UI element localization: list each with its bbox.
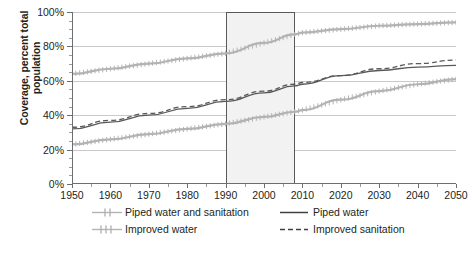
legend-label: Improved sanitation xyxy=(313,223,405,235)
x-minor-tick xyxy=(322,184,323,187)
x-minor-tick xyxy=(206,184,207,187)
x-tick-label: 2040 xyxy=(406,189,429,201)
legend-item-improved-water: Improved water xyxy=(92,223,280,235)
x-tick xyxy=(187,184,188,188)
legend-item-improved-sanitation: Improved sanitation xyxy=(280,223,405,235)
y-tick-label: 20% xyxy=(43,144,64,156)
x-tick-label: 2000 xyxy=(252,189,275,201)
x-tick-label: 2030 xyxy=(368,189,391,201)
legend-item-piped-water-and-sanitation: Piped water and sanitation xyxy=(92,206,280,218)
y-tick-label: 100% xyxy=(37,6,64,18)
x-tick-label: 1970 xyxy=(137,189,160,201)
line-light-plus-markers-icon xyxy=(92,207,122,218)
series-layer xyxy=(72,12,456,184)
x-minor-tick xyxy=(437,184,438,187)
x-minor-tick xyxy=(360,184,361,187)
x-minor-tick xyxy=(130,184,131,187)
x-minor-tick xyxy=(398,184,399,187)
x-tick xyxy=(341,184,342,188)
x-tick-label: 1990 xyxy=(214,189,237,201)
series-improved-water xyxy=(72,20,456,77)
x-tick-label: 1960 xyxy=(99,189,122,201)
legend-label: Improved water xyxy=(125,223,197,235)
x-tick-label: 1950 xyxy=(60,189,83,201)
y-axis-title: Coverage, percent total population xyxy=(18,0,42,142)
legend-label: Piped water and sanitation xyxy=(125,206,249,218)
x-tick xyxy=(456,184,457,188)
x-tick xyxy=(264,184,265,188)
x-tick xyxy=(149,184,150,188)
y-tick-label: 60% xyxy=(43,75,64,87)
x-minor-tick xyxy=(283,184,284,187)
x-tick xyxy=(72,184,73,188)
line-light-plus-markers-icon xyxy=(92,224,122,235)
line-dashed-dark-icon xyxy=(280,224,310,235)
y-tick-label: 40% xyxy=(43,109,64,121)
legend-row: Piped water and sanitation Piped water xyxy=(92,206,452,218)
x-tick xyxy=(379,184,380,188)
x-tick xyxy=(418,184,419,188)
x-minor-tick xyxy=(168,184,169,187)
x-tick xyxy=(302,184,303,188)
chart-legend: Piped water and sanitation Piped water xyxy=(92,206,452,240)
x-tick-label: 1980 xyxy=(176,189,199,201)
legend-row: Improved water Improved sanitation xyxy=(92,223,452,235)
y-tick-label: 80% xyxy=(43,40,64,52)
plot-area: 0%20%40%60%80%100% 195019601970198019902… xyxy=(72,12,456,184)
x-tick-label: 2020 xyxy=(329,189,352,201)
legend-item-piped-water: Piped water xyxy=(280,206,368,218)
legend-label: Piped water xyxy=(313,206,368,218)
x-tick xyxy=(226,184,227,188)
x-tick xyxy=(110,184,111,188)
x-minor-tick xyxy=(91,184,92,187)
series-piped-water-and-sanitation xyxy=(72,76,456,147)
x-minor-tick xyxy=(245,184,246,187)
y-axis-line xyxy=(72,12,73,184)
x-axis-line xyxy=(72,183,456,184)
line-solid-dark-icon xyxy=(280,207,310,218)
x-tick-label: 2010 xyxy=(291,189,314,201)
x-tick-label: 2050 xyxy=(444,189,467,201)
